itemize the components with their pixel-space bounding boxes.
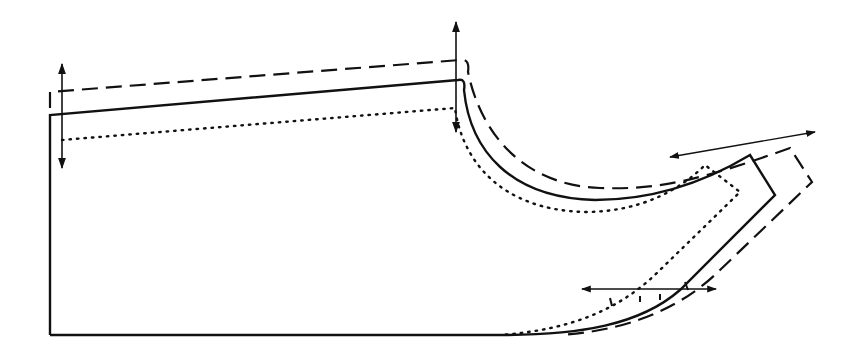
base-size-outline [50,80,775,335]
upper-right-diagonal-arrow [670,132,815,157]
smaller-size-outline [62,108,740,335]
pattern-grading-diagram [0,0,860,359]
larger-size-outline [50,60,812,335]
